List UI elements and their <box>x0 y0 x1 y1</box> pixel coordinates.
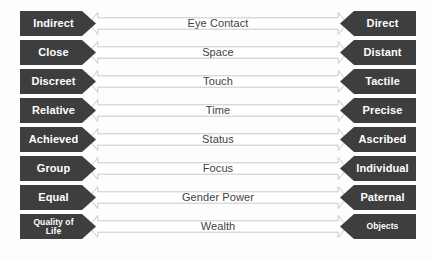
right-pole-label: Ascribed <box>340 127 416 152</box>
left-pole-text: Quality of Life <box>33 218 73 236</box>
left-pole-label: Indirect <box>20 11 96 36</box>
right-pole-text: Objects <box>367 222 399 231</box>
double-arrow-icon <box>89 99 347 122</box>
right-pole-text: Distant <box>364 47 402 59</box>
left-pole-text: Group <box>37 163 71 175</box>
right-pole-text: Paternal <box>360 192 404 204</box>
right-pole-text: Ascribed <box>359 134 407 146</box>
left-pole-text: Relative <box>32 105 75 117</box>
double-headed-arrow: Eye Contact <box>89 12 347 35</box>
double-headed-arrow: Status <box>89 128 347 151</box>
double-headed-arrow: Gender Power <box>89 186 347 209</box>
left-pole-label: Group <box>20 156 96 181</box>
left-pole-label: Equal <box>20 185 96 210</box>
left-pole-label: Close <box>20 40 96 65</box>
continuum-row: Gender PowerEqualPaternal <box>0 183 433 212</box>
left-pole-label: Achieved <box>20 127 96 152</box>
left-pole-label: Relative <box>20 98 96 123</box>
double-arrow-icon <box>89 186 347 209</box>
continuum-row: FocusGroupIndividual <box>0 154 433 183</box>
double-arrow-icon <box>89 70 347 93</box>
right-pole-text: Tactile <box>365 76 400 88</box>
double-headed-arrow: Touch <box>89 70 347 93</box>
right-pole-label: Individual <box>340 156 416 181</box>
continuum-row: TimeRelativePrecise <box>0 96 433 125</box>
right-pole-label: Tactile <box>340 69 416 94</box>
left-pole-text: Discreet <box>31 76 75 88</box>
left-pole-label: Quality of Life <box>20 214 96 239</box>
continuum-row: WealthQuality of LifeObjects <box>0 212 433 241</box>
double-headed-arrow: Time <box>89 99 347 122</box>
right-pole-text: Precise <box>363 105 403 117</box>
double-arrow-icon <box>89 215 347 238</box>
left-pole-text: Close <box>38 47 68 59</box>
left-pole-label: Discreet <box>20 69 96 94</box>
right-pole-label: Distant <box>340 40 416 65</box>
continuum-row: TouchDiscreetTactile <box>0 67 433 96</box>
right-pole-text: Direct <box>367 18 399 30</box>
left-pole-text: Indirect <box>33 18 74 30</box>
continuum-row: Eye ContactIndirectDirect <box>0 9 433 38</box>
double-arrow-icon <box>89 128 347 151</box>
right-pole-label: Direct <box>340 11 416 36</box>
right-pole-label: Objects <box>340 214 416 239</box>
double-arrow-icon <box>89 12 347 35</box>
continuum-row: SpaceCloseDistant <box>0 38 433 67</box>
double-headed-arrow: Focus <box>89 157 347 180</box>
right-pole-text: Individual <box>356 163 408 175</box>
left-pole-text: Equal <box>38 192 68 204</box>
cultural-dimensions-diagram: Eye ContactIndirectDirectSpaceCloseDista… <box>0 0 433 261</box>
continuum-row: StatusAchievedAscribed <box>0 125 433 154</box>
double-headed-arrow: Space <box>89 41 347 64</box>
double-arrow-icon <box>89 41 347 64</box>
right-pole-label: Precise <box>340 98 416 123</box>
left-pole-text: Achieved <box>29 134 79 146</box>
double-headed-arrow: Wealth <box>89 215 347 238</box>
double-arrow-icon <box>89 157 347 180</box>
right-pole-label: Paternal <box>340 185 416 210</box>
